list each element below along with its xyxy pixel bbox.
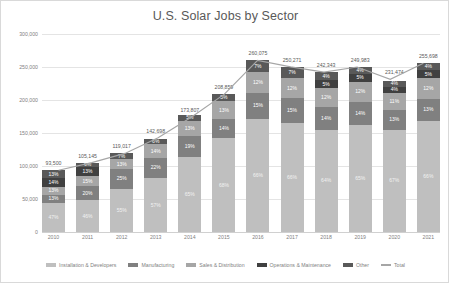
- bar-segment-label: 66%: [423, 174, 433, 179]
- bar-segment[interactable]: 46%: [76, 200, 99, 232]
- y-axis-tick: 200,000: [19, 97, 38, 103]
- bar-segment-label: 15%: [83, 179, 93, 184]
- bar-segment-label: 14%: [48, 180, 58, 185]
- legend-item[interactable]: Operations & Maintenance: [257, 262, 331, 268]
- bar-segment-label: 12%: [355, 89, 365, 94]
- x-axis-labels: 2010201120122013201420152016201720182019…: [42, 234, 440, 240]
- bar-segment-label: 55%: [117, 208, 127, 213]
- bar-segment[interactable]: 66%: [281, 123, 304, 232]
- y-axis-tick: 250,000: [19, 64, 38, 70]
- bar-segment[interactable]: 14%: [144, 144, 167, 157]
- bar-segment[interactable]: 12%: [349, 82, 372, 102]
- bar-segment[interactable]: 13%: [42, 170, 65, 178]
- bar-column[interactable]: 250,2717%12%15%66%: [281, 34, 304, 232]
- bar-segment[interactable]: 13%: [212, 101, 235, 119]
- bar-segment[interactable]: 12%: [246, 72, 269, 93]
- bar-segment[interactable]: 14%: [42, 178, 65, 187]
- bar-segment[interactable]: 4%: [315, 72, 338, 80]
- bar-segment[interactable]: 15%: [246, 93, 269, 119]
- bar-column[interactable]: 260,0757%12%15%66%: [246, 34, 269, 232]
- bar-segment[interactable]: 13%: [76, 167, 99, 176]
- bar-segment[interactable]: 25%: [110, 169, 133, 189]
- bar-segment[interactable]: 13%: [383, 110, 406, 130]
- bar-segment[interactable]: 47%: [42, 203, 65, 232]
- bar-segment[interactable]: 13%: [417, 99, 440, 121]
- bar-segment-label: 22%: [151, 165, 161, 170]
- bar-segment[interactable]: 7%: [246, 60, 269, 72]
- bar-segment[interactable]: 13%: [42, 187, 65, 195]
- bar-segment-label: 5%: [186, 115, 193, 120]
- bar-column[interactable]: 249,9834%5%12%14%65%: [349, 34, 372, 232]
- x-axis-tick: 2014: [178, 234, 201, 240]
- bar-segment[interactable]: 11%: [383, 93, 406, 110]
- bar-total-label: 250,271: [283, 57, 302, 63]
- bar-segment[interactable]: 68%: [212, 138, 235, 232]
- bar-segment[interactable]: 57%: [144, 178, 167, 232]
- bar-segment[interactable]: 66%: [246, 119, 269, 232]
- bar-segment-label: 4%: [323, 74, 330, 79]
- bar-column[interactable]: 255,6984%5%12%13%66%: [417, 34, 440, 232]
- bar-segment-label: 68%: [219, 183, 229, 188]
- bar-column[interactable]: 208,8595%13%14%68%: [212, 34, 235, 232]
- bar-column[interactable]: 142,6986%14%22%57%: [144, 34, 167, 232]
- bar-segment[interactable]: 65%: [349, 125, 372, 232]
- legend-item[interactable]: Other: [343, 262, 369, 268]
- x-axis-tick: 2015: [212, 234, 235, 240]
- legend-swatch-icon: [381, 264, 391, 266]
- legend-item[interactable]: Manufacturing: [128, 262, 174, 268]
- bar-total-label: 93,500: [46, 160, 62, 166]
- bar-column[interactable]: 93,50013%14%13%13%47%: [42, 34, 65, 232]
- bar-column[interactable]: 231,4744%4%11%13%67%: [383, 34, 406, 232]
- legend-item[interactable]: Sales & Distribution: [186, 262, 244, 268]
- bar-segment-label: 66%: [253, 173, 263, 178]
- bar-segment[interactable]: 67%: [383, 130, 406, 232]
- bar-segment-label: 14%: [151, 149, 161, 154]
- legend-item[interactable]: Installation & Developers: [46, 262, 116, 268]
- bar-segment[interactable]: 5%: [315, 80, 338, 88]
- x-axis-tick: 2019: [349, 234, 372, 240]
- bar-segment[interactable]: 5%: [349, 74, 372, 82]
- bar-segment[interactable]: 55%: [110, 189, 133, 232]
- bar-segment[interactable]: 15%: [281, 98, 304, 123]
- bar-segment-label: 12%: [253, 80, 263, 85]
- bar-total-label: 173,807: [180, 107, 199, 113]
- legend-item[interactable]: Total: [381, 262, 405, 268]
- bar-segment[interactable]: 12%: [417, 78, 440, 98]
- bar-column[interactable]: 173,8075%13%19%65%: [178, 34, 201, 232]
- bar-total-label: 255,698: [419, 53, 438, 59]
- bar-column[interactable]: 119,0177%13%25%55%: [110, 34, 133, 232]
- bar-segment[interactable]: 65%: [178, 157, 201, 232]
- bar-segment[interactable]: 20%: [76, 186, 99, 200]
- bar-segment[interactable]: 64%: [315, 130, 338, 232]
- bar-segment[interactable]: 15%: [76, 176, 99, 186]
- x-axis-tick: 2011: [76, 234, 99, 240]
- bar-segment[interactable]: 14%: [315, 107, 338, 129]
- bar-segment[interactable]: 5%: [417, 70, 440, 78]
- bar-segment[interactable]: 4%: [349, 67, 372, 74]
- bar-segment-label: 15%: [287, 108, 297, 113]
- y-axis-tick: 0: [35, 229, 38, 235]
- x-axis-tick: 2020: [383, 234, 406, 240]
- legend-label: Total: [394, 262, 405, 268]
- bar-segment[interactable]: 12%: [281, 78, 304, 98]
- chart-title: U.S. Solar Jobs by Sector: [1, 9, 449, 23]
- bar-segment[interactable]: 12%: [315, 88, 338, 107]
- bar-segment[interactable]: 13%: [110, 159, 133, 169]
- bar-segment[interactable]: 7%: [281, 67, 304, 79]
- bar-segment[interactable]: 13%: [178, 121, 201, 136]
- bar-segment-label: 66%: [287, 175, 297, 180]
- bar-segment[interactable]: 19%: [178, 136, 201, 158]
- bar-segment[interactable]: 13%: [42, 195, 65, 203]
- bar-segment[interactable]: 5%: [212, 94, 235, 101]
- bar-column[interactable]: 242,3434%5%12%14%64%: [315, 34, 338, 232]
- bar-segment-label: 64%: [321, 178, 331, 183]
- bar-segment-label: 14%: [321, 116, 331, 121]
- bar-column[interactable]: 105,1456%13%15%20%46%: [76, 34, 99, 232]
- bar-segment[interactable]: 4%: [417, 63, 440, 70]
- bar-segment[interactable]: 14%: [349, 102, 372, 125]
- bar-segment[interactable]: 22%: [144, 158, 167, 179]
- bar-segment[interactable]: 14%: [212, 119, 235, 138]
- bar-segment-label: 4%: [391, 81, 398, 86]
- bar-segment[interactable]: 66%: [417, 121, 440, 232]
- bar-total-label: 119,017: [112, 143, 130, 149]
